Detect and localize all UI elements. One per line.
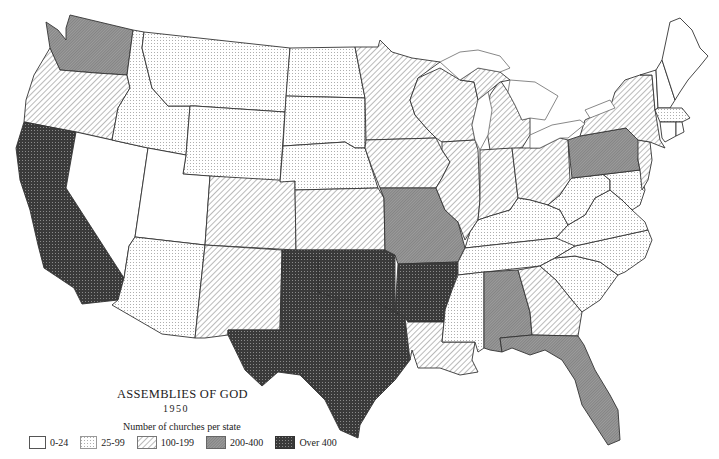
state-nebraska bbox=[280, 142, 378, 190]
state-kansas bbox=[295, 188, 385, 250]
dots-swatch-icon bbox=[80, 436, 97, 449]
legend-item-25-99: 25-99 bbox=[80, 436, 124, 449]
blank-swatch-icon bbox=[29, 436, 46, 449]
state-north-dakota bbox=[286, 47, 365, 98]
grid-swatch-icon bbox=[275, 436, 295, 449]
state-rhode-island bbox=[676, 122, 684, 136]
state-connecticut bbox=[660, 122, 676, 142]
legend-item-200-400: 200-400 bbox=[206, 436, 263, 449]
map-title: ASSEMBLIES OF GOD bbox=[117, 387, 248, 402]
legend-item-0-24: 0-24 bbox=[29, 436, 68, 449]
us-choropleth-map bbox=[0, 0, 719, 459]
state-florida bbox=[500, 335, 620, 445]
state-wyoming bbox=[183, 106, 285, 182]
map-year: 1950 bbox=[163, 403, 189, 414]
crosshatch-swatch-icon bbox=[206, 436, 226, 449]
state-pennsylvania bbox=[568, 128, 640, 178]
state-washington bbox=[46, 15, 133, 75]
state-montana bbox=[142, 32, 290, 112]
legend-row: 0-24 25-99 100-199 200-400 Over 400 bbox=[29, 436, 349, 449]
legend-item-100-199: 100-199 bbox=[137, 436, 194, 449]
state-massachusetts bbox=[655, 108, 690, 122]
legend-item-over-400: Over 400 bbox=[275, 436, 337, 449]
hatch-swatch-icon bbox=[137, 436, 157, 449]
state-iowa bbox=[365, 138, 450, 188]
state-new-mexico bbox=[195, 245, 282, 338]
state-colorado bbox=[205, 176, 296, 250]
legend-subtitle: Number of churches per state bbox=[123, 421, 241, 432]
state-south-dakota bbox=[283, 96, 365, 148]
